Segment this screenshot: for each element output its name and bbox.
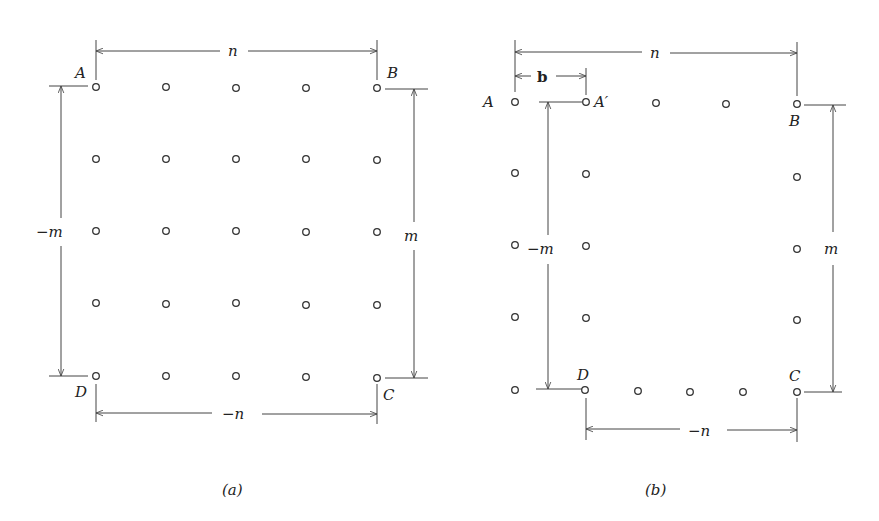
label-A: A xyxy=(73,64,86,82)
label-C: C xyxy=(789,367,801,385)
dim-top-n: n xyxy=(228,42,238,60)
lattice-points-b xyxy=(512,99,801,396)
dim-bottom-minus-n: −n xyxy=(688,422,710,440)
dim-bottom-minus-n: −n xyxy=(222,405,244,423)
label-A-prime: A′ xyxy=(592,93,609,111)
figure-a: n A B D C −m m −n (a) xyxy=(36,40,428,499)
label-B: B xyxy=(386,64,398,82)
lattice-diagram: n A B D C −m m −n (a) xyxy=(0,0,879,521)
label-D: D xyxy=(576,366,589,384)
figure-b: n b A A′ B D C −m m −n xyxy=(481,40,846,499)
label-C: C xyxy=(383,386,395,404)
caption-b: (b) xyxy=(645,481,666,499)
dim-left-minus-m: −m xyxy=(527,240,554,258)
dim-left-minus-m: −m xyxy=(36,223,63,241)
label-D: D xyxy=(74,383,87,401)
dim-right-m: m xyxy=(404,227,418,245)
label-B: B xyxy=(788,112,800,130)
dim-right-m: m xyxy=(824,240,838,258)
dim-offset-b: b xyxy=(537,68,548,86)
label-A: A xyxy=(481,93,494,111)
lattice-points-a xyxy=(93,84,381,382)
dim-top-n: n xyxy=(650,44,660,62)
caption-a: (a) xyxy=(222,481,243,499)
